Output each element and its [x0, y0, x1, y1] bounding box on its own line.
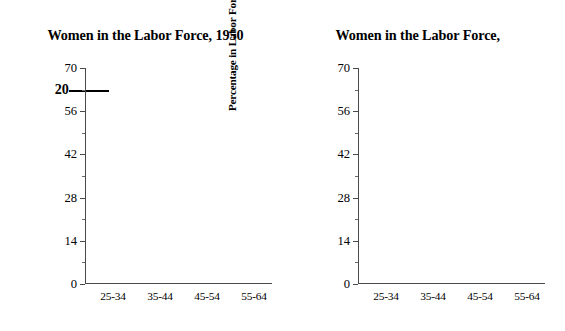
y-tick-label: 14 [64, 233, 77, 248]
x-tick-label: 55-64 [514, 290, 540, 302]
chart-title-line1: Women in the Labor Force, [336, 27, 500, 43]
x-tick-label: 25-34 [100, 290, 126, 302]
plot-area [86, 68, 272, 283]
y-tick-major [80, 111, 85, 112]
y-tick-label: 42 [64, 147, 77, 162]
y-tick-label: 14 [337, 233, 350, 248]
chart-title: Women in the Labor Force, [322, 8, 565, 62]
y-tick-major [353, 111, 358, 112]
y-tick-label: 70 [64, 61, 77, 76]
y-tick-major [80, 284, 85, 285]
chart-left: Women in the Labor Force, 1950 20 Percen… [0, 0, 283, 331]
y-tick-label: 28 [337, 190, 350, 205]
x-axis-line [358, 283, 545, 284]
y-tick-minor [355, 176, 358, 177]
y-tick-label: 56 [337, 104, 350, 119]
chart-right: Women in the Labor Force, Percentage in … [282, 0, 565, 331]
y-tick-minor [355, 219, 358, 220]
x-tick-label: 25-34 [373, 290, 399, 302]
y-tick-minor [82, 219, 85, 220]
chart-title-year-prefix: 20 [55, 81, 69, 97]
y-tick-minor [82, 176, 85, 177]
y-tick-major [80, 198, 85, 199]
plot-area [359, 68, 545, 283]
chart-title-line1: Women in the Labor Force, 1950 [48, 27, 244, 43]
y-tick-major [353, 198, 358, 199]
y-tick-minor [82, 133, 85, 134]
x-tick-label: 55-64 [241, 290, 267, 302]
y-tick-minor [355, 262, 358, 263]
y-tick-label: 42 [337, 147, 350, 162]
y-tick-label: 28 [64, 190, 77, 205]
y-tick-minor [82, 90, 85, 91]
y-tick-major [353, 241, 358, 242]
y-tick-minor [355, 90, 358, 91]
y-tick-label: 0 [71, 277, 77, 292]
x-axis-line [85, 283, 272, 284]
y-tick-major [353, 154, 358, 155]
y-tick-major [80, 241, 85, 242]
y-axis-label: Percentage in Labor Force [226, 0, 238, 140]
x-tick-label: 45-54 [467, 290, 493, 302]
y-tick-major [80, 154, 85, 155]
y-tick-major [353, 284, 358, 285]
x-tick-label: 35-44 [147, 290, 173, 302]
y-tick-label: 70 [337, 61, 350, 76]
y-tick-major [353, 68, 358, 69]
x-tick-label: 35-44 [420, 290, 446, 302]
plot-frame: 70 56 42 28 14 0 25-34 35-44 45-54 55-64 [358, 68, 545, 284]
plot-frame: 70 56 42 28 14 0 25-34 35-44 45-54 55-64 [85, 68, 272, 284]
y-tick-minor [355, 133, 358, 134]
y-tick-minor [82, 262, 85, 263]
y-tick-major [80, 68, 85, 69]
x-tick-label: 45-54 [194, 290, 220, 302]
y-tick-label: 56 [64, 104, 77, 119]
y-tick-label: 0 [344, 277, 350, 292]
